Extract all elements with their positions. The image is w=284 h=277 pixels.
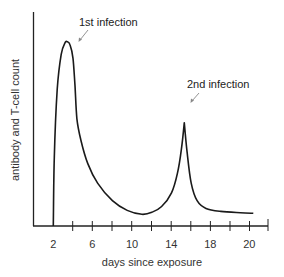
antibody-response-chart: 2 6 10 14 18 20 days since exposure anti… <box>0 0 284 277</box>
annotation-second-infection: 2nd infection <box>187 78 249 90</box>
annotation-first-infection: 1st infection <box>79 16 138 28</box>
x-axis-title: days since exposure <box>102 256 202 268</box>
x-ticks <box>73 219 268 231</box>
x-tick-label: 14 <box>165 238 177 250</box>
arrow-first-infection <box>80 30 88 40</box>
x-tick-label: 2 <box>50 238 56 250</box>
y-axis-title: antibody and T-cell count <box>9 59 21 181</box>
x-tick-label: 20 <box>243 238 255 250</box>
x-tick-label: 18 <box>204 238 216 250</box>
x-tick-label: 6 <box>89 238 95 250</box>
response-curve <box>53 41 253 226</box>
x-tick-label: 10 <box>126 238 138 250</box>
arrow-second-infection <box>192 93 199 101</box>
